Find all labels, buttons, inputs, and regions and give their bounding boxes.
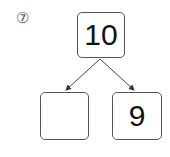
- arrow-right: [100, 59, 134, 90]
- arrow-left: [66, 59, 100, 90]
- bottom-right-number-box: 9: [112, 92, 162, 140]
- answer-box[interactable]: [40, 92, 89, 140]
- top-number-box: 10: [77, 12, 125, 58]
